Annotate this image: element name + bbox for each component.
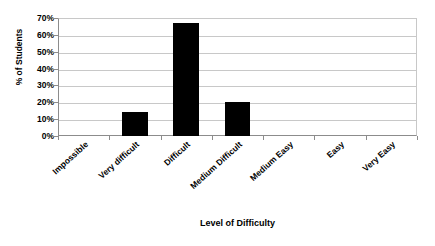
- y-axis-tick-label: 10%: [24, 115, 54, 124]
- x-axis-tick: [417, 136, 418, 140]
- x-axis-tick-labels: ImpossibleVery difficultDifficultMedium …: [58, 140, 417, 206]
- bar: [122, 112, 148, 136]
- y-axis-tick-label: 50%: [24, 47, 54, 56]
- y-axis-tick-label: 60%: [24, 31, 54, 40]
- y-axis-tick-label: 70%: [24, 14, 54, 23]
- bar-series: [58, 18, 417, 136]
- x-axis-title: Level of Difficulty: [58, 218, 417, 228]
- y-axis-tick-label: 0%: [24, 132, 54, 141]
- y-axis-tick-label: 20%: [24, 98, 54, 107]
- y-axis-title: % of Students: [14, 2, 24, 112]
- bar: [173, 23, 199, 136]
- y-axis-tick-label: 30%: [24, 81, 54, 90]
- bar-chart: % of Students 0%10%20%30%40%50%60%70% Im…: [0, 0, 435, 246]
- bar: [225, 102, 251, 136]
- y-axis-tick-label: 40%: [24, 64, 54, 73]
- y-axis-tick-labels: 0%10%20%30%40%50%60%70%: [24, 18, 54, 136]
